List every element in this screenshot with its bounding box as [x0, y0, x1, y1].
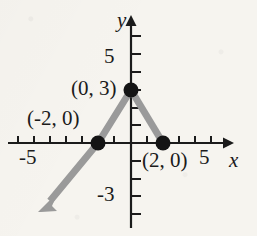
- x-tick-label-neg5: -5: [19, 147, 37, 168]
- y-axis-label: y: [117, 10, 126, 31]
- x-axis-label: x: [229, 150, 238, 171]
- graph-figure: y x 5 -3 -5 5 (0, 3) (-2, 0) (2, 0): [0, 0, 257, 236]
- y-tick-label-5: 5: [104, 46, 115, 67]
- point-label-left-intercept: (-2, 0): [27, 108, 79, 129]
- point-label-right-intercept: (2, 0): [142, 150, 188, 171]
- y-tick-label-neg3: -3: [97, 184, 115, 205]
- y-axis-ticks: [131, 36, 141, 214]
- point-label-vertex: (0, 3): [71, 78, 117, 99]
- x-tick-label-5: 5: [199, 147, 210, 168]
- y-axis-arrowhead: [126, 15, 137, 26]
- x-axis-arrowhead: [223, 138, 234, 149]
- point-marker-left-intercept: [91, 136, 106, 151]
- graph-arrowhead: [38, 192, 58, 212]
- point-marker-vertex: [124, 83, 139, 98]
- graph-branch-right: [131, 90, 163, 143]
